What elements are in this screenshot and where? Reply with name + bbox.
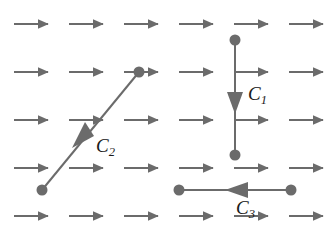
curve-c3-end-point (174, 185, 185, 196)
curve-c2-direction-arrowhead (72, 122, 94, 148)
figure-canvas: C1 C2 C3 (0, 0, 334, 238)
curve-c3-label-subscript: 3 (249, 207, 255, 221)
curve-c2-label-subscript: 2 (109, 145, 115, 159)
curve-c3-direction-arrowhead (225, 182, 248, 198)
curve-c2-label: C2 (96, 136, 115, 158)
curve-c1-end-point (230, 150, 241, 161)
curve-c2-label-letter: C (96, 135, 109, 156)
curve-c2-start-point (37, 185, 48, 196)
curve-c1-direction-arrowhead (227, 92, 243, 114)
curve-c2-end-point (134, 67, 145, 78)
curve-c1-label: C1 (248, 84, 267, 106)
curve-c3-label-letter: C (236, 197, 249, 218)
curve-c1-start-point (230, 35, 241, 46)
curve-c3 (174, 182, 297, 198)
vector-field-arrows (14, 24, 323, 216)
vector-field-diagram (0, 0, 334, 238)
curve-c1-label-subscript: 1 (261, 93, 267, 107)
curve-c3-label: C3 (236, 198, 255, 220)
curve-c2 (37, 67, 145, 196)
curve-c1-label-letter: C (248, 83, 261, 104)
curve-c3-start-point (286, 185, 297, 196)
curve-c1 (227, 35, 243, 161)
